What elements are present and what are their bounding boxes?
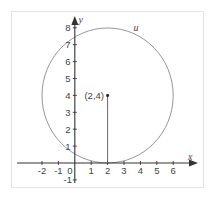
- x-tick-label: 3: [121, 165, 126, 176]
- x-tick-label: 6: [171, 165, 176, 176]
- x-tick-label: 5: [154, 165, 159, 176]
- y-axis-label: y: [78, 14, 84, 25]
- y-tick-label: 2: [65, 124, 70, 135]
- y-tick-label: 3: [65, 107, 70, 118]
- x-tick-label: 1: [89, 165, 94, 176]
- y-tick-label: 8: [65, 22, 70, 33]
- y-axis-arrow-icon: [71, 16, 78, 25]
- y-tick-label: 1: [65, 141, 70, 152]
- coordinate-plane: -2 -1 0 1 2 3 4 5 6 1 2 3 4 5 6 7 8 -1 x…: [0, 0, 215, 198]
- center-point: [106, 94, 109, 97]
- x-axis-label: x: [187, 151, 193, 162]
- y-tick-label: 7: [65, 39, 70, 50]
- x-tick-label: 2: [105, 165, 110, 176]
- y-tick-label: 4: [65, 90, 70, 101]
- y-tick-label: 6: [65, 56, 70, 67]
- center-point-label: (2,4): [84, 90, 104, 101]
- y-tick-label: 5: [65, 73, 70, 84]
- x-tick-label: -2: [38, 165, 46, 176]
- circle-label: u: [134, 22, 139, 33]
- x-tick-label: -1: [54, 165, 62, 176]
- x-tick-label: 4: [138, 165, 143, 176]
- y-tick-label: -1: [64, 174, 72, 185]
